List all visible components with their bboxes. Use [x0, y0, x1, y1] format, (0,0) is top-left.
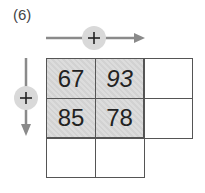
- horizontal-plus-arrow-icon: [46, 26, 145, 50]
- grid-cell-r2c1: 85: [46, 98, 96, 139]
- vertical-plus-arrow-icon: [14, 58, 38, 136]
- grid-cell-r2c3-answer[interactable]: [143, 98, 193, 139]
- grid-cell-r1c3-answer[interactable]: [143, 58, 193, 99]
- grid-cell-r1c1: 67: [46, 58, 96, 99]
- grid-cell-r3c2-answer[interactable]: [95, 137, 145, 178]
- grid-cell-r1c2: 93: [95, 58, 145, 99]
- grid-cell-r2c2: 78: [95, 98, 145, 139]
- grid-cell-r3c1-answer[interactable]: [46, 137, 96, 178]
